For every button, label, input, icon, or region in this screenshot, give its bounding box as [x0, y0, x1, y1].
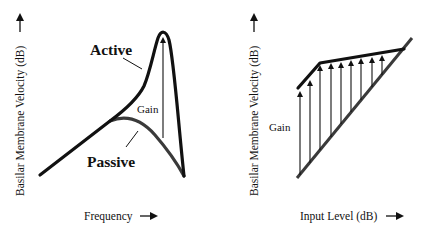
passive-leader-line — [126, 131, 138, 147]
left-y-axis: Basilar Membrane Velocity (dB) — [14, 17, 27, 196]
passive-linear-line — [297, 38, 412, 178]
right-x-axis-label: Input Level (dB) — [300, 210, 377, 223]
left-x-axis-label: Frequency — [84, 210, 133, 223]
left-y-axis-label: Basilar Membrane Velocity (dB) — [14, 46, 27, 196]
right-gain-label: Gain — [269, 121, 291, 133]
right-x-axis: Input Level (dB) — [300, 210, 400, 223]
active-label: Active — [90, 41, 132, 58]
diagram-canvas: Basilar Membrane Velocity (dB) Frequency… — [0, 0, 428, 236]
active-leader-line — [123, 58, 142, 69]
passive-label: Passive — [87, 153, 135, 170]
left-panel: Basilar Membrane Velocity (dB) Frequency… — [14, 17, 184, 223]
left-gain-label: Gain — [137, 103, 159, 115]
right-y-axis: Basilar Membrane Velocity (dB) — [248, 17, 261, 196]
right-panel: Basilar Membrane Velocity (dB) Input Lev… — [248, 17, 412, 223]
right-y-axis-label: Basilar Membrane Velocity (dB) — [248, 46, 261, 196]
left-x-axis: Frequency — [84, 210, 154, 223]
